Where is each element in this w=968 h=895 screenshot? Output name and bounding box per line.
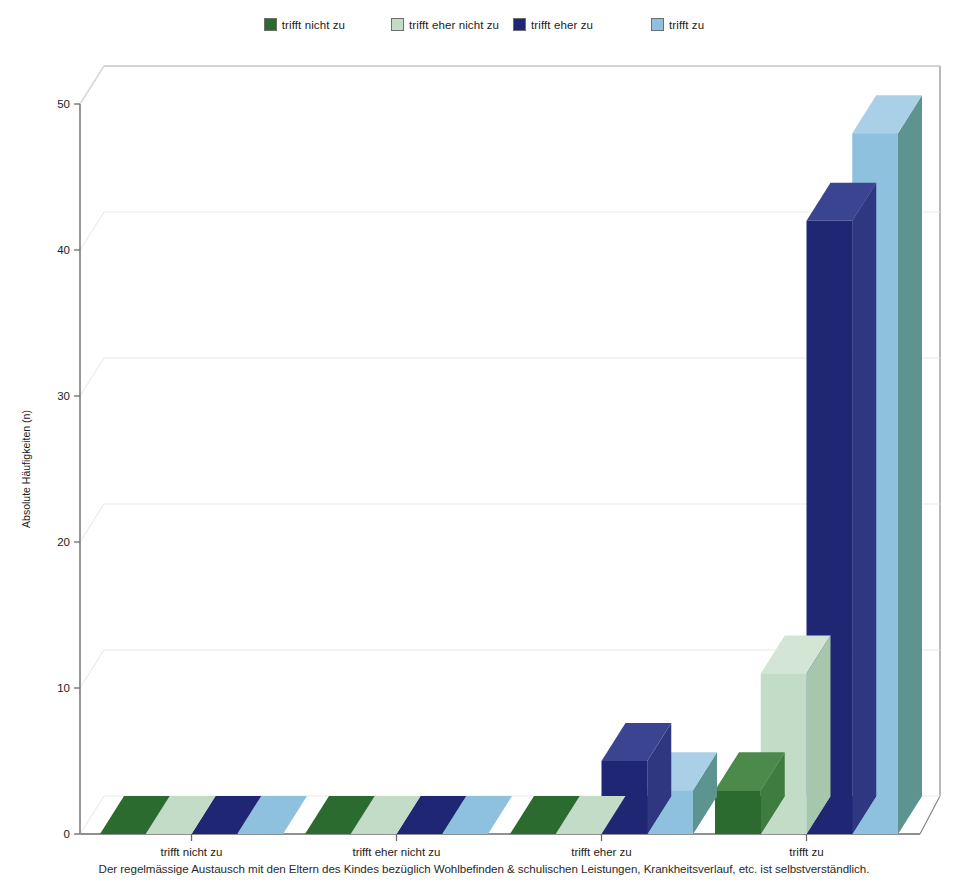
plot-frame-top: [80, 66, 940, 104]
y-axis-tick-label: 0: [64, 828, 70, 840]
grid-line: [80, 66, 940, 104]
x-axis-category-label: trifft nicht zu: [161, 846, 223, 858]
bar-front-face: [715, 790, 761, 834]
plot-frame-floor-right: [920, 796, 940, 834]
y-axis-tick-label: 20: [57, 536, 70, 548]
y-axis-tick-label: 10: [57, 682, 70, 694]
y-axis-tick-label: 30: [57, 390, 70, 402]
floor-left-edge: [80, 796, 104, 834]
y-axis-tick-label: 50: [57, 98, 70, 110]
bar-chart-plot: 01020304050Absolute Häufigkeiten (n)trif…: [0, 0, 968, 895]
bar-side-face: [852, 183, 876, 834]
bar-side-face: [898, 95, 922, 834]
x-axis-category-label: trifft zu: [789, 846, 823, 858]
y-axis-title: Absolute Häufigkeiten (n): [20, 410, 32, 528]
chart-container: trifft nicht zutrifft eher nicht zutriff…: [0, 0, 968, 895]
x-axis-category-label: trifft eher zu: [571, 846, 632, 858]
chart-caption: Der regelmässige Austausch mit den Elter…: [0, 862, 968, 875]
x-axis-category-label: trifft eher nicht zu: [353, 846, 441, 858]
y-axis-tick-label: 40: [57, 244, 70, 256]
